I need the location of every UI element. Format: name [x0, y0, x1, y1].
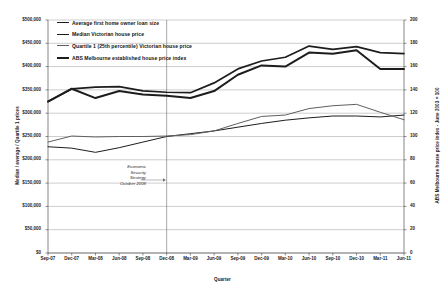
annotation-line: October 2008	[98, 181, 146, 187]
legend-item-abs-index: ABS Melbourne established house price in…	[57, 52, 317, 64]
x-tick-label: Jun-11	[389, 257, 419, 262]
chart-legend: Average first home owner loan size Media…	[57, 17, 317, 63]
legend-label: ABS Melbourne established house price in…	[72, 55, 186, 61]
legend-line-icon	[57, 34, 69, 36]
house-price-chart: $0$50,000$100,000$150,000$200,000$250,00…	[0, 0, 445, 294]
legend-label: Quartile 1 (25th percentile) Victorian h…	[72, 43, 192, 49]
legend-line-icon	[57, 22, 69, 23]
legend-label: Average first home owner loan size	[72, 20, 159, 26]
right-axis-title: ABS Melbourne house price index - June 2…	[435, 81, 440, 211]
economic-security-strategy-annotation: Economic Security Strategy October 2008	[98, 164, 146, 186]
legend-line-icon	[57, 57, 69, 59]
left-axis-title: Median / average / Quartile 1 prices	[15, 81, 20, 211]
legend-item-quartile1: Quartile 1 (25th percentile) Victorian h…	[57, 40, 317, 52]
x-axis-title: Quarter	[0, 277, 445, 282]
legend-line-icon	[57, 45, 69, 46]
legend-label: Median Victorian house price	[72, 31, 144, 37]
legend-item-average-loan: Average first home owner loan size	[57, 17, 317, 29]
legend-item-median-price: Median Victorian house price	[57, 29, 317, 41]
